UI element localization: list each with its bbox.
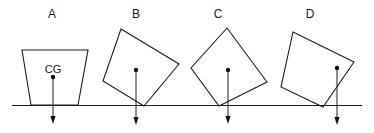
center-of-gravity-dot bbox=[335, 66, 339, 70]
object-label: A bbox=[48, 7, 56, 21]
cg-label: CG bbox=[45, 63, 62, 75]
arrow-down-icon bbox=[334, 117, 339, 125]
objects-group: ACGBCD bbox=[22, 7, 354, 125]
center-of-gravity-dot bbox=[226, 68, 230, 72]
object-label: C bbox=[214, 7, 223, 21]
object-b: B bbox=[103, 7, 179, 125]
object-c: C bbox=[191, 7, 267, 124]
stability-diagram: ACGBCD bbox=[0, 0, 374, 133]
object-outline bbox=[103, 29, 179, 106]
object-a: ACG bbox=[22, 7, 88, 124]
object-outline bbox=[281, 32, 354, 107]
object-label: D bbox=[306, 7, 315, 21]
center-of-gravity-dot bbox=[51, 75, 55, 79]
arrow-down-icon bbox=[50, 116, 55, 124]
object-outline bbox=[191, 28, 267, 106]
arrow-down-icon bbox=[225, 116, 230, 124]
arrow-down-icon bbox=[133, 117, 138, 125]
object-d: D bbox=[281, 7, 354, 125]
object-label: B bbox=[132, 7, 140, 21]
center-of-gravity-dot bbox=[134, 68, 138, 72]
